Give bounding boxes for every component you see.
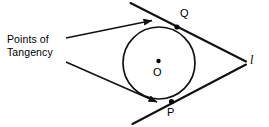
lower-tangent-line bbox=[133, 65, 247, 125]
label-center-o: O bbox=[153, 67, 162, 78]
label-point-q: Q bbox=[180, 8, 189, 19]
leader-arrow-lower bbox=[66, 62, 157, 102]
label-point-p: P bbox=[167, 107, 174, 118]
tangency-point-q-marker bbox=[174, 24, 179, 29]
diagram-canvas bbox=[0, 0, 269, 127]
label-line-l: l bbox=[250, 55, 253, 66]
circle-center-dot bbox=[156, 59, 160, 63]
points-of-tangency-caption: Points of Tangency bbox=[7, 33, 85, 59]
tangency-diagram: Points of Tangency Q P O l bbox=[0, 0, 269, 127]
tangency-point-p-marker bbox=[169, 99, 174, 104]
